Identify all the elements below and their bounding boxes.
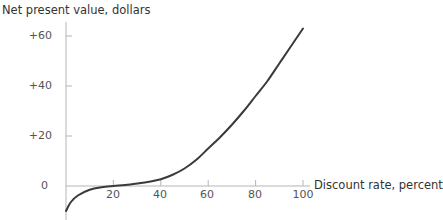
- x-axis-title: Discount rate, percent: [314, 178, 443, 192]
- x-tick-label: 80: [240, 188, 270, 201]
- x-tick-label: 40: [145, 188, 175, 201]
- x-tick-label: 60: [192, 188, 222, 201]
- y-ticks: [66, 36, 72, 136]
- y-tick-label: +40: [12, 79, 52, 92]
- y-tick-label: +60: [12, 29, 52, 42]
- x-tick-label: 100: [288, 188, 318, 201]
- y-tick-label: +20: [12, 129, 52, 142]
- npv-curve: [66, 29, 303, 212]
- y-axis-title: Net present value, dollars: [2, 3, 150, 17]
- x-tick-label: 20: [98, 188, 128, 201]
- y-tick-label: 0: [8, 179, 48, 192]
